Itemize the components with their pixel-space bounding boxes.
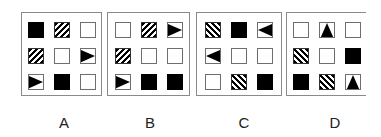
black-cell-icon (257, 74, 273, 90)
hatch-l-cell-icon (205, 22, 221, 38)
hatch-l-cell-icon (293, 48, 309, 64)
triangle-up-cell-icon (345, 74, 361, 90)
option-d-grid (287, 13, 366, 95)
black-cell-icon (293, 74, 309, 90)
hatch-l-cell-icon (231, 74, 247, 90)
hatch-l-cell-icon (319, 74, 335, 90)
option-c-panel[interactable] (196, 12, 282, 96)
hatch-r-cell-icon (28, 48, 44, 64)
option-c-grid (197, 13, 281, 95)
option-b-label: B (135, 114, 165, 131)
empty-cell-icon (293, 22, 309, 38)
empty-cell-icon (205, 74, 221, 90)
option-c-label: C (229, 114, 259, 131)
black-cell-icon (167, 74, 183, 90)
option-d-panel[interactable] (286, 12, 366, 96)
triangle-left-cell-icon (205, 48, 221, 64)
triangle-left-cell-icon (257, 22, 273, 38)
option-b-panel[interactable] (107, 12, 190, 96)
empty-cell-icon (80, 74, 96, 90)
empty-cell-icon (80, 22, 96, 38)
black-cell-icon (28, 22, 44, 38)
triangle-right-cell-icon (167, 22, 183, 38)
empty-cell-icon (319, 48, 335, 64)
option-a-label: A (49, 114, 79, 131)
empty-cell-icon (141, 48, 157, 64)
hatch-r-cell-icon (141, 22, 157, 38)
hatch-r-cell-icon (54, 22, 70, 38)
black-cell-icon (141, 74, 157, 90)
triangle-up-cell-icon (319, 22, 335, 38)
empty-cell-icon (167, 48, 183, 64)
empty-cell-icon (257, 48, 273, 64)
option-a-panel[interactable] (21, 12, 102, 96)
triangle-right-cell-icon (28, 74, 44, 90)
black-cell-icon (231, 22, 247, 38)
empty-cell-icon (345, 22, 361, 38)
empty-cell-icon (54, 48, 70, 64)
triangle-right-cell-icon (80, 48, 96, 64)
hatch-r-cell-icon (115, 48, 131, 64)
black-cell-icon (345, 48, 361, 64)
option-b-grid (108, 13, 189, 95)
triangle-right-cell-icon (115, 74, 131, 90)
black-cell-icon (54, 74, 70, 90)
option-a-grid (22, 13, 101, 95)
option-d-label: D (320, 114, 350, 131)
empty-cell-icon (231, 48, 247, 64)
empty-cell-icon (115, 22, 131, 38)
